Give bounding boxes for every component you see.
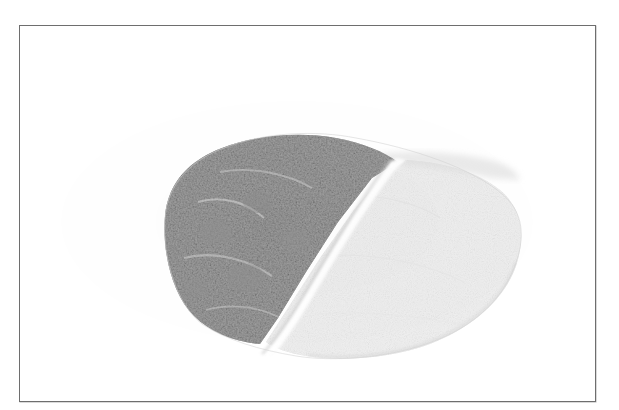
specimen-stage bbox=[20, 26, 597, 403]
screenshot-page bbox=[0, 0, 619, 410]
plate-frame bbox=[19, 25, 596, 402]
specimen-micrograph bbox=[20, 26, 597, 403]
